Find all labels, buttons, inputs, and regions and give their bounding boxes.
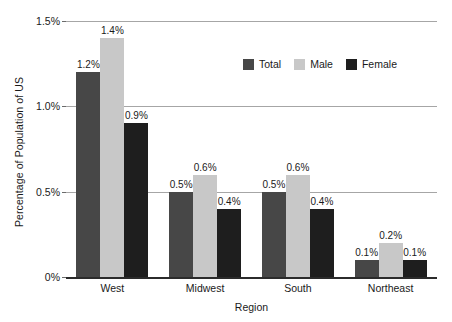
x-tick-label-south: South (284, 282, 311, 294)
bar-south-total[interactable]: 0.5% (262, 192, 286, 277)
bar-value-label: 0.5% (262, 180, 285, 190)
bar-group: 0.5%0.6%0.4% (169, 21, 241, 277)
bar-value-label: 1.2% (77, 60, 100, 70)
x-tick-label-northeast: Northeast (368, 282, 414, 294)
y-tick-label: 1.0% (8, 100, 60, 112)
bar-value-label: 0.6% (286, 163, 309, 173)
y-tick-label: 0.5% (8, 186, 60, 198)
bar-northeast-female[interactable]: 0.1% (403, 260, 427, 277)
bar-south-female[interactable]: 0.4% (310, 209, 334, 277)
legend-swatch-icon (243, 59, 254, 70)
bar-midwest-male[interactable]: 0.6% (193, 175, 217, 277)
x-tick-label-west: West (101, 282, 125, 294)
bar-midwest-total[interactable]: 0.5% (169, 192, 193, 277)
bar-chart: Percentage of Population of US 0%0.5%1.0… (0, 0, 452, 322)
bar-value-label: 0.5% (170, 180, 193, 190)
legend-label: Female (362, 58, 397, 70)
legend-swatch-icon (294, 59, 305, 70)
bar-south-male[interactable]: 0.6% (286, 175, 310, 277)
y-axis-ticks: 0%0.5%1.0%1.5% (0, 0, 60, 322)
bar-northeast-male[interactable]: 0.2% (379, 243, 403, 277)
bar-value-label: 1.4% (101, 26, 124, 36)
legend-label: Male (310, 58, 333, 70)
bar-west-total[interactable]: 1.2% (76, 72, 100, 277)
x-axis-title: Region (66, 301, 437, 313)
legend-item-male[interactable]: Male (294, 58, 333, 70)
bar-value-label: 0.9% (125, 111, 148, 121)
x-tick-label-midwest: Midwest (186, 282, 225, 294)
bar-midwest-female[interactable]: 0.4% (217, 209, 241, 277)
bar-value-label: 0.1% (403, 248, 426, 258)
bar-west-male[interactable]: 1.4% (100, 38, 124, 277)
bar-value-label: 0.1% (355, 248, 378, 258)
bar-northeast-total[interactable]: 0.1% (355, 260, 379, 277)
bar-value-label: 0.4% (310, 197, 333, 207)
legend-swatch-icon (346, 59, 357, 70)
bar-west-female[interactable]: 0.9% (124, 123, 148, 277)
bar-value-label: 0.6% (194, 163, 217, 173)
y-tick-label: 0% (8, 271, 60, 283)
legend-label: Total (259, 58, 281, 70)
bar-value-label: 0.4% (218, 197, 241, 207)
x-axis-ticks: WestMidwestSouthNortheast (66, 282, 437, 298)
bar-value-label: 0.2% (379, 231, 402, 241)
bar-group: 1.2%1.4%0.9% (76, 21, 148, 277)
x-axis-line (66, 277, 437, 279)
y-tick-label: 1.5% (8, 15, 60, 27)
legend-item-total[interactable]: Total (243, 58, 281, 70)
legend-item-female[interactable]: Female (346, 58, 397, 70)
legend: TotalMaleFemale (243, 57, 397, 71)
